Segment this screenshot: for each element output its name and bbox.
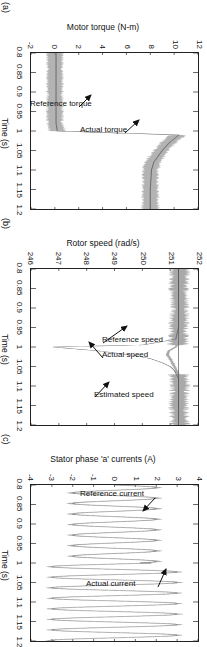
panel-a-xtick: 1 — [15, 129, 24, 133]
panel-b-xtick: 0.85 — [15, 280, 24, 296]
panel-a-ytick: -2 — [26, 42, 35, 49]
panel-a-xtick: 0.9 — [15, 86, 24, 97]
panel-c-xtick: 1.2 — [15, 636, 24, 647]
panel-a-ytick: 4 — [98, 45, 107, 49]
panel-a-xtick: 1.2 — [15, 204, 24, 215]
panel-a-xtick: 1.1 — [15, 165, 24, 176]
panel-b-ytick: 251 — [166, 252, 175, 265]
panel-c-tag: (c) — [1, 434, 11, 445]
panel-b-annotation-reference-speed: Reference speed — [102, 335, 163, 344]
panel-b-xtick-group: 0.8 0.85 0.9 0.95 1 1.05 1.1 1.15 1.2 — [12, 268, 24, 426]
panel-a-xtick: 0.8 — [15, 46, 24, 57]
panel-c-ytick: 2 — [152, 477, 161, 481]
panel-b-xtick: 0.9 — [15, 302, 24, 313]
panel-c-traces — [31, 485, 198, 641]
panel-b-xlabel: Time (s) — [0, 268, 10, 431]
panel-b-xtick: 1 — [15, 345, 24, 349]
panel-a-xtick: 0.85 — [15, 64, 24, 80]
panel-c-plot-area — [30, 484, 199, 642]
panel-a-xtick: 1.15 — [15, 182, 24, 198]
panel-b-plot-area — [30, 268, 199, 426]
panel-b-rotor-speed: (b) Rotor speed (rad/s) Time (s) 252 251… — [0, 216, 207, 431]
panel-b-tag: (b) — [1, 218, 11, 229]
panel-a-xlabel: Time (s) — [0, 52, 10, 215]
panel-c-ytick: 1 — [131, 477, 140, 481]
panel-b-ytick: 252 — [195, 252, 204, 265]
panel-b-ytick: 248 — [82, 252, 91, 265]
panel-a-xtick-group: 0.8 0.85 0.9 0.95 1 1.05 1.1 1.15 1.2 — [12, 52, 24, 210]
panel-a-annotation-actual-torque: Actual torque — [80, 125, 127, 134]
panel-a-ytick: 6 — [122, 45, 131, 49]
panel-c-ytick: -3 — [47, 474, 56, 481]
panel-b-xtick: 0.8 — [15, 262, 24, 273]
panel-c-xtick: 0.85 — [15, 496, 24, 512]
panel-c-ytick: 3 — [173, 477, 182, 481]
panel-c-ytick: -4 — [26, 474, 35, 481]
panel-a-ytick: 8 — [146, 45, 155, 49]
panel-c-ytick: 0 — [110, 477, 119, 481]
panel-c-xtick: 1 — [15, 561, 24, 565]
panel-c-ylabel: Stator phase 'a' currents (A) — [29, 454, 179, 464]
panel-c-annotation-reference-current: Reference current — [80, 489, 144, 498]
panel-c-xtick: 1.15 — [15, 614, 24, 630]
figure-canvas: (a) Motor torque (N-m) Time (s) 12 10 8 … — [0, 0, 207, 647]
panel-c-xtick: 1.1 — [15, 597, 24, 608]
panel-a-xtick: 0.95 — [15, 103, 24, 119]
panel-c-annotation-actual-current: Actual current — [86, 579, 135, 588]
panel-c-xtick: 1.05 — [15, 575, 24, 591]
panel-c-xtick: 0.95 — [15, 535, 24, 551]
panel-c-xtick: 0.9 — [15, 518, 24, 529]
panel-a-ytick: 0 — [50, 45, 59, 49]
panel-b-ytick: 246 — [26, 252, 35, 265]
panel-b-xtick: 1.2 — [15, 420, 24, 431]
panel-a-ytick: 12 — [195, 40, 204, 49]
panel-b-ytick: 247 — [54, 252, 63, 265]
panel-c-xtick: 0.8 — [15, 478, 24, 489]
panel-b-annotation-actual-speed: Actual speed — [102, 350, 148, 359]
panel-b-xtick: 0.95 — [15, 319, 24, 335]
panel-b-ylabel: Rotor speed (rad/s) — [29, 238, 179, 248]
panel-a-annotation-reference-torque: Reference torque — [30, 99, 92, 108]
panel-c-ytick: -1 — [89, 474, 98, 481]
panel-b-ytick: 249 — [110, 252, 119, 265]
panel-c-xtick-group: 0.8 0.85 0.9 0.95 1 1.05 1.1 1.15 1.2 — [12, 484, 24, 642]
panel-b-annotation-estimated-speed: Estimated speed — [94, 390, 154, 399]
panel-b-xtick: 1.15 — [15, 398, 24, 414]
panel-b-ytick: 250 — [138, 252, 147, 265]
panel-a-xtick: 1.05 — [15, 143, 24, 159]
panel-a-tag: (a) — [1, 2, 11, 13]
panel-a-motor-torque: (a) Motor torque (N-m) Time (s) 12 10 8 … — [0, 0, 207, 215]
panel-a-ytick: 2 — [74, 45, 83, 49]
panel-a-ytick: 10 — [170, 40, 179, 49]
panel-a-ylabel: Motor torque (N-m) — [29, 22, 179, 32]
panel-c-stator-currents: (c) Stator phase 'a' currents (A) Time (… — [0, 432, 207, 647]
panel-c-xlabel: Time (s) — [0, 484, 10, 647]
panel-c-ytick: -2 — [68, 474, 77, 481]
panel-b-xtick: 1.05 — [15, 359, 24, 375]
panel-b-xtick: 1.1 — [15, 381, 24, 392]
panel-b-traces — [31, 269, 198, 425]
panel-c-ytick: 4 — [195, 477, 204, 481]
